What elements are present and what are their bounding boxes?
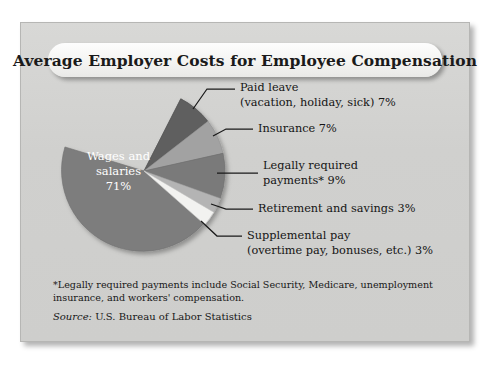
chart-source-text: U.S. Bureau of Labor Statistics <box>95 311 252 322</box>
leader-line-supplemental <box>201 221 242 236</box>
pie-label-legally-required-line2: payments* 9% <box>263 174 358 189</box>
leader-line-insurance <box>213 129 253 136</box>
pie-label-supplemental-pay: Supplemental pay (overtime pay, bonuses,… <box>247 229 433 258</box>
leader-line-paid-leave <box>193 89 235 109</box>
pie-label-insurance: Insurance 7% <box>258 122 337 137</box>
pie-label-supplemental-line1: Supplemental pay <box>247 229 433 244</box>
pie-label-legally-required-payments: Legally required payments* 9% <box>263 159 358 188</box>
pie-label-wages-and-salaries: Wages and salaries 71% <box>66 149 171 194</box>
pie-label-retirement-and-savings: Retirement and savings 3% <box>258 202 415 217</box>
pie-label-paid-leave: Paid leave (vacation, holiday, sick) 7% <box>240 81 396 110</box>
chart-source: Source: U.S. Bureau of Labor Statistics <box>53 311 252 322</box>
pie-label-legally-required-line1: Legally required <box>263 159 358 174</box>
pie-label-paid-leave-line2: (vacation, holiday, sick) 7% <box>240 96 396 111</box>
chart-footnote: *Legally required payments include Socia… <box>53 279 445 304</box>
chart-source-label: Source: <box>53 311 92 322</box>
pie-label-wages-line1: Wages and <box>66 149 171 164</box>
chart-panel: Average Employer Costs for Employee Comp… <box>20 22 470 342</box>
pie-label-supplemental-line2: (overtime pay, bonuses, etc.) 3% <box>247 244 433 259</box>
chart-figure: Average Employer Costs for Employee Comp… <box>0 0 494 367</box>
pie-label-wages-line2: salaries <box>66 164 171 179</box>
pie-label-wages-line3: 71% <box>66 179 171 194</box>
pie-label-paid-leave-line1: Paid leave <box>240 81 396 96</box>
